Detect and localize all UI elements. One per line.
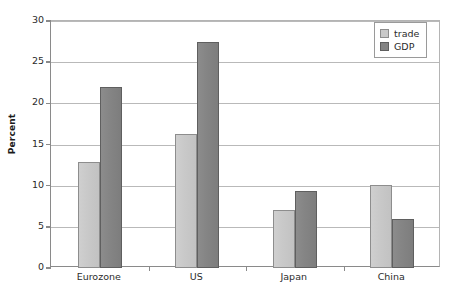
y-axis-tick-label: 0: [24, 262, 44, 272]
x-axis-tick-mark: [246, 266, 247, 271]
bar-trade-japan: [273, 210, 295, 268]
y-axis-tick-mark: [46, 185, 51, 186]
x-axis-label-china: China: [378, 272, 405, 282]
y-axis-tick-label: 25: [24, 56, 44, 66]
y-axis-tick-mark: [46, 103, 51, 104]
gridline: [51, 62, 439, 63]
bar-gdp-china: [392, 219, 414, 268]
x-axis-tick-mark: [149, 266, 150, 271]
x-axis-label-eurozone: Eurozone: [77, 272, 121, 282]
x-axis-tick-mark: [344, 266, 345, 271]
y-axis-tick-mark: [46, 20, 51, 21]
bar-trade-eurozone: [78, 162, 100, 268]
y-axis-title: Percent: [2, 0, 22, 267]
x-axis-label-japan: Japan: [281, 272, 308, 282]
y-axis-tick-labels: 051015202530: [20, 0, 44, 294]
legend-label: trade: [394, 29, 419, 39]
legend-label: GDP: [394, 42, 414, 52]
y-axis-tick-label: 20: [24, 98, 44, 108]
x-axis-label-us: US: [190, 272, 203, 282]
y-axis-title-text: Percent: [7, 113, 17, 154]
bar-gdp-us: [197, 42, 219, 268]
bar-gdp-japan: [295, 191, 317, 268]
y-axis-tick-label: 5: [24, 221, 44, 231]
y-axis-tick-label: 15: [24, 139, 44, 149]
y-axis-tick-label: 10: [24, 180, 44, 190]
legend-item-gdp: GDP: [380, 40, 419, 53]
bar-chart: Percent 051015202530 EurozoneUSJapanChin…: [0, 0, 453, 294]
y-axis-tick-mark: [46, 144, 51, 145]
y-axis-tick-label: 30: [24, 15, 44, 25]
legend-swatch-gdp-icon: [380, 42, 389, 51]
bar-trade-us: [175, 134, 197, 268]
y-axis-tick-mark: [46, 267, 51, 268]
legend-swatch-trade-icon: [380, 29, 389, 38]
chart-legend: tradeGDP: [374, 22, 427, 58]
bar-trade-china: [370, 185, 392, 268]
bar-gdp-eurozone: [100, 87, 122, 268]
y-axis-tick-mark: [46, 61, 51, 62]
legend-item-trade: trade: [380, 27, 419, 40]
y-axis-tick-mark: [46, 226, 51, 227]
